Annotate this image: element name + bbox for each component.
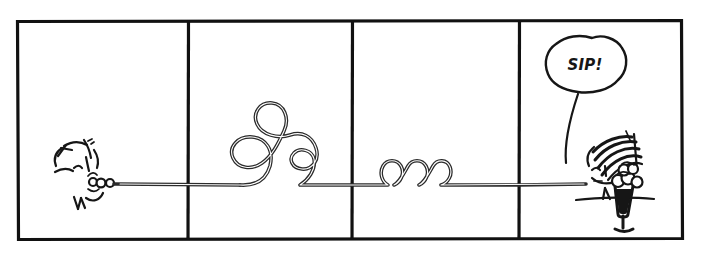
server-nose [605,166,606,176]
cream-blob-3 [632,177,643,188]
panel-divider-2 [352,21,353,239]
lip-circle-2 [97,179,106,188]
balloon-text: SIP! [567,56,602,74]
comic-strip: SIP! [0,0,716,258]
cream-blob-5 [628,164,638,174]
comic-artwork: SIP! [0,0,716,258]
panel-divider-3 [519,21,520,239]
panel-divider-1 [188,21,189,239]
